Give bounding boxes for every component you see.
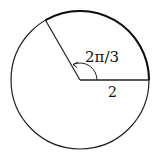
diagram-canvas: 2π/3 2 (0, 0, 156, 160)
circle-diagram: 2π/3 2 (0, 0, 156, 160)
radius-label: 2 (108, 84, 117, 100)
angle-arrow-icon (73, 62, 78, 68)
angle-label: 2π/3 (85, 48, 119, 66)
radius-line-angled (46, 20, 81, 80)
sector-arc (46, 11, 150, 80)
